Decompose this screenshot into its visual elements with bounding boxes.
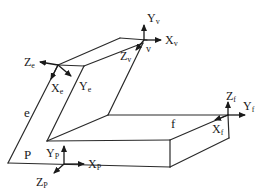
face-label-e: e (24, 105, 30, 120)
label-yv: Yv (147, 11, 160, 26)
frame-v: Yv Xv Zv v (120, 11, 178, 64)
slab-top-front-edge (58, 65, 84, 66)
face-label-p: P (24, 147, 31, 162)
label-yp: YP (46, 146, 60, 161)
face-label-f: f (171, 116, 176, 131)
axis-xe-arrow (51, 65, 58, 79)
box-right-vertical-edge (228, 115, 229, 138)
label-xv: Xv (165, 33, 178, 48)
frame-p: YP XP ZP P (24, 146, 102, 190)
label-xe: Xe (51, 81, 64, 96)
label-zf: Zf (226, 89, 236, 104)
frame-e: Ze Xe Ye e (24, 55, 92, 120)
frame-f: Zf Yf Xf f (171, 89, 255, 137)
label-ye: Ye (79, 79, 92, 94)
face-label-v: v (146, 43, 151, 54)
axis-zp-arrow (54, 164, 64, 173)
label-ze: Ze (24, 55, 35, 70)
axis-xf-arrow (215, 115, 228, 120)
label-zp: ZP (36, 175, 48, 190)
base-top-edge (47, 140, 170, 141)
box-bottom-right-edge (170, 138, 229, 167)
coordinate-frames-diagram: Yv Xv Zv v Ze Xe Ye e YP XP ZP P Zf Yf X… (0, 0, 263, 191)
axis-ze-arrow (40, 62, 58, 65)
label-xf: Xf (212, 122, 224, 137)
label-zv: Zv (120, 49, 131, 64)
base-and-box (8, 115, 229, 167)
slab-top-back-edge (58, 38, 120, 65)
slab-lower-inner-edge (47, 115, 108, 141)
label-yf: Yf (243, 99, 255, 114)
slab-top-right-edge (120, 38, 147, 40)
axis-ye-arrow (58, 65, 71, 76)
label-xp: XP (88, 157, 102, 172)
